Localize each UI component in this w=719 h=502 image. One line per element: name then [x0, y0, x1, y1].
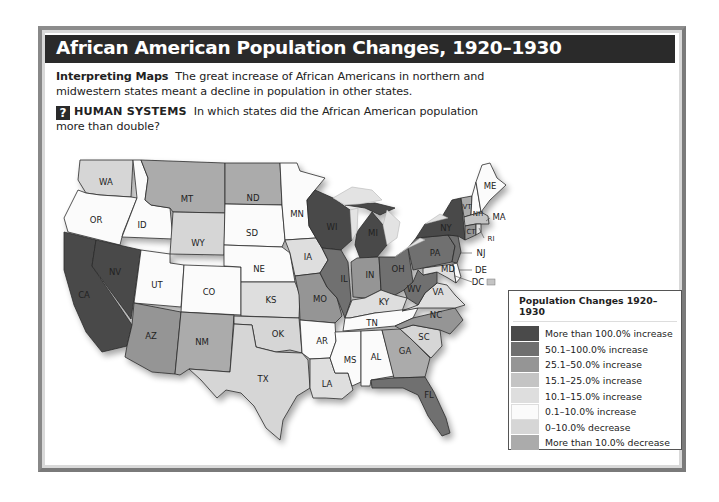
legend-label: 0–10.0% decrease	[545, 422, 630, 433]
legend-item: 50.1–100.0% increase	[509, 342, 681, 358]
legend-item: 25.1–50.0% increase	[509, 357, 681, 373]
svg-text:TN: TN	[365, 318, 378, 328]
svg-text:NY: NY	[440, 223, 452, 233]
legend-swatch	[511, 420, 539, 436]
svg-text:WA: WA	[99, 177, 113, 187]
legend-swatch	[511, 326, 539, 342]
svg-text:CT: CT	[466, 228, 476, 236]
legend-label: 15.1–25.0% increase	[545, 375, 642, 386]
svg-text:OH: OH	[391, 264, 404, 274]
legend-label: 25.1–50.0% increase	[545, 359, 642, 370]
legend-swatch	[511, 357, 539, 373]
svg-text:VT: VT	[462, 203, 472, 211]
legend-label: More than 100.0% increase	[545, 328, 673, 339]
svg-text:NE: NE	[253, 264, 265, 274]
state-wy[interactable]	[170, 212, 225, 255]
svg-text:CA: CA	[78, 290, 90, 300]
svg-text:ME: ME	[484, 181, 497, 191]
legend-item: 0–10.0% decrease	[509, 420, 681, 436]
legend-swatch	[511, 435, 539, 451]
legend-items: More than 100.0% increase 50.1–100.0% in…	[509, 322, 681, 451]
svg-text:WV: WV	[407, 284, 421, 294]
legend-item: More than 100.0% increase	[509, 326, 681, 342]
svg-text:KY: KY	[379, 297, 390, 307]
svg-text:ID: ID	[137, 220, 147, 230]
svg-text:AR: AR	[316, 336, 328, 346]
svg-text:AZ: AZ	[145, 331, 157, 341]
svg-text:IA: IA	[304, 252, 313, 262]
state-sd[interactable]	[224, 204, 285, 247]
svg-text:NM: NM	[195, 337, 209, 347]
svg-text:MN: MN	[290, 209, 304, 219]
legend-label: 50.1–100.0% increase	[545, 344, 648, 355]
svg-text:WI: WI	[327, 222, 338, 232]
svg-text:GA: GA	[399, 346, 412, 356]
svg-text:FL: FL	[424, 390, 434, 400]
svg-text:DC: DC	[472, 277, 485, 287]
legend-swatch	[511, 404, 539, 420]
svg-text:IL: IL	[340, 274, 348, 284]
svg-text:PA: PA	[430, 248, 441, 258]
state-mt[interactable]	[141, 160, 225, 213]
legend-swatch	[511, 373, 539, 389]
legend-label: More than 10.0% decrease	[545, 437, 670, 448]
legend-item: 15.1–25.0% increase	[509, 373, 681, 389]
svg-text:AL: AL	[371, 352, 382, 362]
svg-text:MS: MS	[344, 355, 357, 365]
legend-swatch	[511, 388, 539, 404]
svg-text:MT: MT	[181, 194, 194, 204]
svg-text:OR: OR	[90, 215, 103, 225]
legend-label: 0.1–10.0% increase	[545, 406, 636, 417]
svg-text:OK: OK	[272, 329, 285, 339]
svg-text:MO: MO	[313, 294, 327, 304]
svg-text:LA: LA	[322, 379, 333, 389]
svg-text:WY: WY	[191, 238, 205, 248]
svg-text:NH: NH	[473, 210, 484, 218]
state-ri[interactable]	[476, 224, 481, 235]
svg-text:NC: NC	[430, 310, 442, 320]
legend-item: 10.1–15.0% increase	[509, 388, 681, 404]
svg-text:DE: DE	[475, 265, 487, 275]
legend-item: More than 10.0% decrease	[509, 435, 681, 451]
svg-text:KS: KS	[266, 295, 277, 305]
svg-text:IN: IN	[366, 270, 375, 280]
svg-text:SC: SC	[418, 332, 429, 342]
svg-text:NV: NV	[109, 267, 121, 277]
map-legend: Population Changes 1920–1930 More than 1…	[508, 290, 682, 450]
legend-swatch	[511, 342, 539, 358]
svg-text:NJ: NJ	[477, 248, 486, 258]
state-dc[interactable]	[487, 279, 495, 285]
legend-label: 10.1–15.0% increase	[545, 391, 642, 402]
svg-text:TX: TX	[256, 374, 268, 384]
svg-text:SD: SD	[246, 228, 258, 238]
svg-text:MD: MD	[441, 264, 455, 274]
state-fl[interactable]	[371, 377, 450, 436]
svg-text:UT: UT	[151, 280, 163, 290]
svg-text:RI: RI	[488, 235, 495, 243]
svg-text:MA: MA	[492, 212, 505, 222]
legend-item: 0.1–10.0% increase	[509, 404, 681, 420]
state-ut[interactable]	[134, 250, 184, 307]
legend-title: Population Changes 1920–1930	[513, 291, 677, 322]
svg-text:CO: CO	[203, 287, 216, 297]
svg-text:VA: VA	[432, 287, 443, 297]
svg-text:ND: ND	[247, 193, 260, 203]
svg-text:MI: MI	[368, 228, 378, 238]
